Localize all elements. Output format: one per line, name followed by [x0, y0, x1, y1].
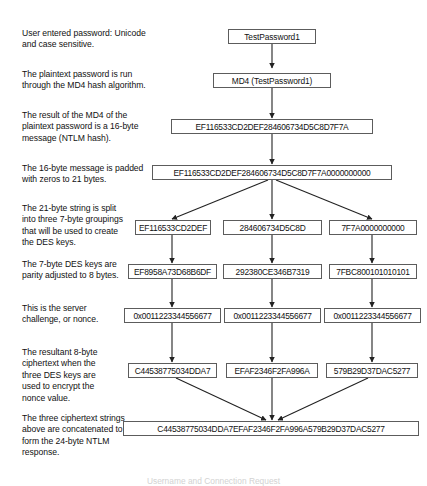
node-password: TestPassword1	[228, 29, 316, 44]
node-grouping-3: 7F7A0000000000	[329, 220, 417, 235]
node-des-key-2: 292380CE346B7319	[223, 264, 322, 279]
node-des-key-1: EF8958A73D68B6DF	[128, 264, 217, 279]
node-ciphertext-1: C44538775034DDA7	[128, 363, 217, 378]
note-password: User entered password: Unicode and case …	[22, 28, 194, 51]
node-ciphertext-3: 579B29D37DAC5277	[326, 363, 418, 378]
node-padded-message: EF116533CD2DEF284606734D5C8D7F7A00000000…	[152, 165, 392, 180]
node-grouping-2: 284606734D5C8D	[223, 220, 322, 235]
node-grouping-1: EF116533CD2DEF	[135, 220, 211, 235]
node-nonce-2: 0x0011223344556677	[224, 308, 321, 323]
node-ntlm-response: C44538775034DDA7EFAF2346F2FA996A579B29D3…	[123, 421, 419, 436]
node-nonce-1: 0x0011223344556677	[124, 308, 221, 323]
note-ntlm-hash: The result of the MD4 of the plaintext p…	[22, 110, 194, 144]
note-md4: The plaintext password is run through th…	[22, 69, 194, 92]
node-nonce-3: 0x0011223344556677	[324, 308, 421, 323]
node-ciphertext-2: EFAF2346F2FA996A	[226, 363, 318, 378]
node-des-key-3: 7FBC800101010101	[329, 264, 417, 279]
diagram-caption: Username and Connection Request	[0, 476, 427, 486]
ntlm-flow-diagram: User entered password: Unicode and case …	[0, 0, 427, 486]
node-md4-call: MD4 (TestPassword1)	[213, 73, 331, 88]
node-ntlm-hash: EF116533CD2DEF284606734D5C8D7F7A	[171, 119, 373, 134]
